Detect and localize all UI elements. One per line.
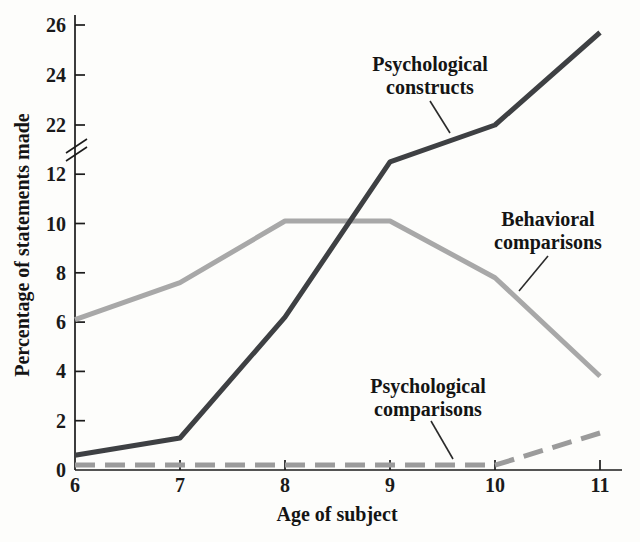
- line-chart-figure: 67891011024681012222426 Percentage of st…: [0, 0, 640, 542]
- y-tick-label-26: 26: [46, 14, 66, 36]
- annotation-text-line: comparisons: [494, 231, 602, 254]
- y-tick-label-4: 4: [56, 360, 66, 382]
- annotation-behavioral-comparisons: Behavioral comparisons: [494, 208, 602, 254]
- annotation-leader-psychological-comparisons: [431, 421, 453, 459]
- annotation-text-line: constructs: [372, 76, 488, 99]
- x-tick-label-8: 8: [280, 474, 290, 496]
- annotation-psychological-comparisons: Psychological comparisons: [370, 375, 486, 421]
- annotation-text-line: Psychological: [372, 53, 488, 76]
- axis-break-mark: [66, 147, 87, 161]
- axis-break-mark: [66, 139, 87, 153]
- y-tick-label-22: 22: [46, 114, 66, 136]
- chart-canvas: 67891011024681012222426: [0, 0, 640, 542]
- y-tick-label-8: 8: [56, 262, 66, 284]
- y-tick-label-10: 10: [46, 213, 66, 235]
- series-line-psychological-comparisons: [75, 433, 600, 465]
- annotation-psychological-constructs: Psychological constructs: [372, 53, 488, 99]
- annotation-text-line: Psychological: [370, 375, 486, 398]
- x-tick-label-6: 6: [70, 474, 80, 496]
- x-axis-title: Age of subject: [276, 503, 397, 526]
- y-tick-label-12: 12: [46, 163, 66, 185]
- y-tick-label-24: 24: [46, 64, 66, 86]
- y-tick-label-6: 6: [56, 311, 66, 333]
- annotation-leader-behavioral-comparisons: [519, 256, 548, 291]
- x-tick-label-11: 11: [591, 474, 610, 496]
- annotation-text-line: comparisons: [370, 398, 486, 421]
- x-tick-label-10: 10: [485, 474, 505, 496]
- y-axis-title: Percentage of statements made: [11, 113, 34, 376]
- y-tick-label-0: 0: [56, 459, 66, 481]
- y-tick-label-2: 2: [56, 410, 66, 432]
- annotation-leader-psychological-constructs: [430, 101, 450, 133]
- x-tick-label-7: 7: [175, 474, 185, 496]
- x-tick-label-9: 9: [385, 474, 395, 496]
- annotation-text-line: Behavioral: [494, 208, 602, 231]
